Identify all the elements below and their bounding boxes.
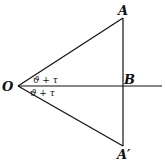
geometry-diagram: O A B A′ ϑ + τ ϑ + τ bbox=[0, 0, 165, 162]
angle-label-lower: ϑ + τ bbox=[30, 88, 56, 98]
angle-label-upper: ϑ + τ bbox=[33, 75, 59, 85]
label-O: O bbox=[2, 79, 14, 94]
label-A-prime: A′ bbox=[115, 147, 131, 162]
label-A: A bbox=[116, 3, 128, 18]
label-B: B bbox=[123, 72, 135, 87]
